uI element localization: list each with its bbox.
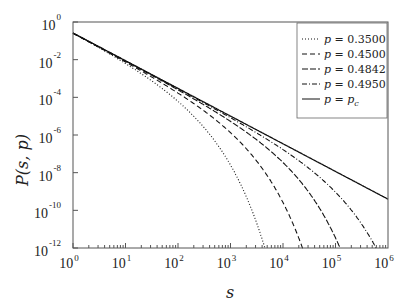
y-axis-label: P(s, p) bbox=[13, 134, 32, 187]
legend: p = 0.3500p = 0.4500p = 0.4842p = 0.4950… bbox=[297, 23, 387, 118]
legend-entry: p = 0.4950 bbox=[324, 78, 386, 91]
legend-entry: p = 0.4842 bbox=[324, 63, 386, 76]
x-axis-label: s bbox=[226, 283, 234, 302]
legend-entry: p = 0.3500 bbox=[324, 33, 386, 46]
legend-entry: p = pc bbox=[324, 93, 359, 108]
legend-entry: p = 0.4500 bbox=[324, 48, 386, 61]
percolation-cluster-size-chart: 100101102103104105106 10010-210-410-610-… bbox=[0, 0, 416, 305]
